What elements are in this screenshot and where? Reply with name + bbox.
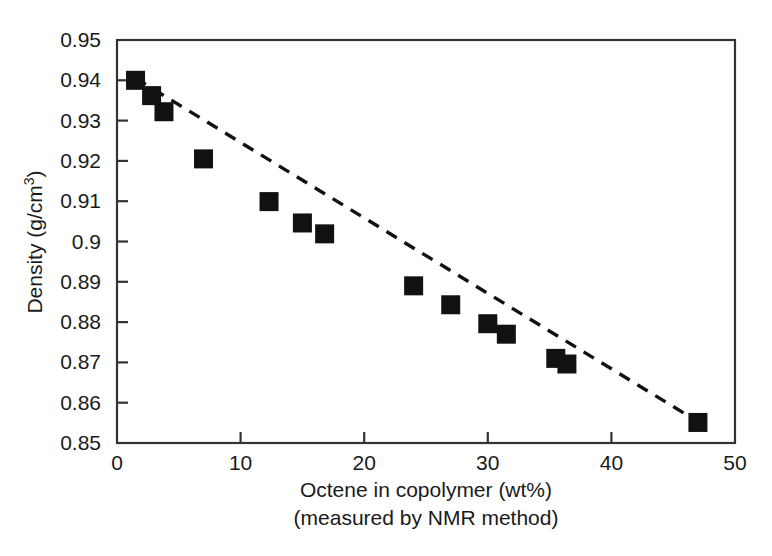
y-axis-tick-labels: 0.850.860.870.880.890.90.910.920.930.940… bbox=[60, 28, 101, 454]
x-tick-label: 50 bbox=[723, 451, 746, 474]
y-axis-title-text: Density (g/cm bbox=[23, 185, 46, 313]
y-tick-label: 0.94 bbox=[60, 68, 101, 91]
data-point bbox=[293, 213, 312, 232]
scatter-plot: 0.850.860.870.880.890.90.910.920.930.940… bbox=[0, 0, 772, 556]
y-tick-label: 0.9 bbox=[72, 230, 101, 253]
data-point bbox=[154, 102, 173, 121]
x-axis-title: Octene in copolymer (wt%) bbox=[300, 478, 552, 501]
y-axis-title-close-paren: ) bbox=[23, 170, 46, 177]
y-axis-title-superscript: 3 bbox=[21, 177, 37, 185]
y-tick-label: 0.89 bbox=[60, 270, 101, 293]
y-tick-label: 0.95 bbox=[60, 28, 101, 51]
x-tick-label: 30 bbox=[476, 451, 499, 474]
data-point bbox=[441, 295, 460, 314]
y-tick-label: 0.85 bbox=[60, 431, 101, 454]
data-point bbox=[194, 149, 213, 168]
data-point bbox=[260, 192, 279, 211]
data-point bbox=[315, 224, 334, 243]
x-tick-label: 10 bbox=[229, 451, 252, 474]
data-point bbox=[557, 355, 576, 374]
y-tick-label: 0.92 bbox=[60, 149, 101, 172]
y-tick-label: 0.88 bbox=[60, 310, 101, 333]
x-axis-tick-labels: 01020304050 bbox=[111, 451, 747, 474]
data-point bbox=[497, 325, 516, 344]
x-axis-subtitle: (measured by NMR method) bbox=[294, 506, 559, 529]
data-point bbox=[688, 413, 707, 432]
y-axis-title: Density (g/cm3) bbox=[21, 170, 46, 313]
data-point bbox=[404, 276, 423, 295]
plot-frame bbox=[117, 40, 735, 443]
x-tick-label: 20 bbox=[353, 451, 376, 474]
y-tick-label: 0.87 bbox=[60, 350, 101, 373]
y-tick-label: 0.86 bbox=[60, 391, 101, 414]
data-point bbox=[478, 314, 497, 333]
chart-figure: 0.850.860.870.880.890.90.910.920.930.940… bbox=[0, 0, 772, 556]
x-tick-label: 40 bbox=[600, 451, 623, 474]
y-tick-label: 0.93 bbox=[60, 109, 101, 132]
x-tick-label: 0 bbox=[111, 451, 123, 474]
y-tick-label: 0.91 bbox=[60, 189, 101, 212]
